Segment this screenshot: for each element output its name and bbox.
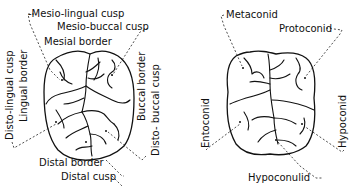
right-tooth-outline — [227, 51, 314, 155]
label-hypoconid: Hypoconid — [337, 95, 348, 148]
label-buccal-border: Buccal border — [136, 51, 147, 121]
right-tooth-diagram — [206, 15, 344, 178]
label-distal-cusp: Distal cusp — [61, 171, 116, 182]
label-disto-buccal-cusp: Disto- buccal cusp — [150, 64, 161, 156]
label-disto-lingual-cusp: Disto-lingual cusp — [4, 50, 15, 140]
molar-diagram-figure: -Mesio-lingual cusp Mesio-buccal cusp Me… — [0, 0, 353, 191]
label-distal-border: Distal border — [39, 157, 105, 168]
left-tooth-outline — [44, 51, 134, 160]
label-hypoconulid: Hypoconulid — [248, 172, 310, 183]
label-mesial-border: Mesial border — [44, 36, 113, 47]
label-entoconid: Entoconid — [200, 98, 211, 148]
label-mesio-lingual-cusp: -Mesio-lingual cusp — [28, 8, 124, 19]
label-lingual-border: Lingual border — [18, 49, 29, 122]
label-protoconid: Protoconid — [279, 23, 332, 34]
label-metaconid: Metaconid — [226, 9, 278, 20]
label-mesio-buccal-cusp: Mesio-buccal cusp — [57, 21, 149, 32]
